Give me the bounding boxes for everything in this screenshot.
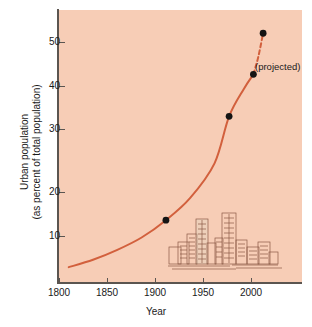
x-tick-1900 [155,278,156,283]
projected-annotation: (projected) [255,62,300,72]
x-axis-title: Year [0,306,312,317]
x-tick-1800 [59,278,60,283]
caption-strip [4,318,124,327]
x-tick-label-1950: 1950 [183,288,223,298]
y-axis-title: Urban population (as percent of total po… [19,52,43,252]
y-axis-title-line1: Urban population [19,52,31,252]
plot-panel [59,10,302,282]
x-axis-line [57,282,302,284]
x-tick-label-1900: 1900 [135,288,175,298]
x-tick-label-2000: 2000 [231,288,271,298]
x-tick-1850 [107,278,108,283]
x-tick-2000 [251,278,252,283]
x-tick-1950 [203,278,204,283]
figure: 50 40 30 20 10 1800 1850 1900 1950 2000 … [0,0,312,327]
y-axis-line [57,9,59,284]
y-tick-label-50: 50 [30,37,60,47]
y-axis-title-line2: (as percent of total population) [31,52,43,252]
x-tick-label-1850: 1850 [87,288,127,298]
x-tick-label-1800: 1800 [39,288,79,298]
